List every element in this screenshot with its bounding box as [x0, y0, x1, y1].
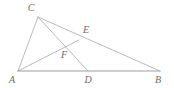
vertex-label-F: F: [61, 50, 67, 60]
geometry-figure: ABCDEF: [0, 0, 174, 88]
vertex-label-E: E: [83, 25, 89, 35]
vertex-label-C: C: [28, 3, 35, 13]
segment-CD: [38, 17, 88, 71]
segment-CB: [38, 17, 160, 71]
vertex-label-D: D: [84, 75, 91, 85]
vertex-label-B: B: [155, 75, 161, 85]
segment-AE: [18, 40, 79, 71]
segment-AC: [18, 17, 38, 71]
vertex-label-A: A: [9, 75, 15, 85]
